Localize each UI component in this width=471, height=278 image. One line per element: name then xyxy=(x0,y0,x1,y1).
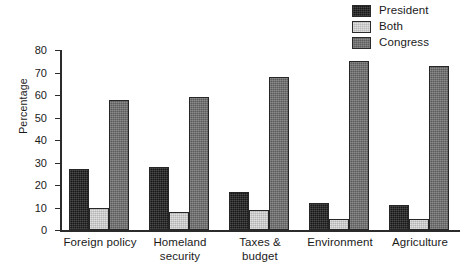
y-tick: 60 xyxy=(55,95,60,96)
bar-president xyxy=(389,205,409,230)
legend-item-congress: Congress xyxy=(352,36,429,49)
bar-group xyxy=(149,97,211,230)
bar-chart: President Both Congress Percentage 01020… xyxy=(0,0,471,278)
bar-both xyxy=(249,210,269,230)
bar-congress xyxy=(109,100,129,231)
y-axis-title: Percentage xyxy=(17,61,29,151)
legend-swatch-both xyxy=(352,21,371,33)
category-label: Homeland security xyxy=(135,236,225,263)
y-tick-label: 30 xyxy=(35,157,47,169)
legend-label-both: Both xyxy=(379,20,403,33)
bar-both xyxy=(89,208,109,231)
category-label: Agriculture xyxy=(375,236,465,250)
legend-swatch-president xyxy=(352,5,371,17)
bar-congress xyxy=(349,61,369,230)
plot-area: 01020304050607080 xyxy=(60,50,460,230)
bar-president xyxy=(309,203,329,230)
y-tick: 30 xyxy=(55,163,60,164)
bar-group xyxy=(389,66,451,230)
bar-both xyxy=(169,212,189,230)
y-tick: 10 xyxy=(55,208,60,209)
x-axis-line xyxy=(60,230,460,232)
y-tick-label: 60 xyxy=(35,89,47,101)
bar-group xyxy=(69,100,131,231)
category-label: Foreign policy xyxy=(55,236,145,250)
y-tick-label: 20 xyxy=(35,179,47,191)
legend-label-congress: Congress xyxy=(379,36,429,49)
y-tick-label: 70 xyxy=(35,67,47,79)
y-tick: 40 xyxy=(55,140,60,141)
y-tick: 80 xyxy=(55,50,60,51)
category-label: Taxes & budget xyxy=(215,236,305,263)
bar-president xyxy=(229,192,249,230)
legend-label-president: President xyxy=(379,4,428,17)
bar-group xyxy=(229,77,291,230)
bar-president xyxy=(69,169,89,230)
bar-both xyxy=(409,219,429,230)
legend-item-president: President xyxy=(352,4,429,17)
y-tick-label: 10 xyxy=(35,202,47,214)
category-label: Environment xyxy=(295,236,385,250)
bar-congress xyxy=(429,66,449,230)
y-axis-line xyxy=(60,50,62,230)
bar-both xyxy=(329,219,349,230)
y-tick-label: 80 xyxy=(35,44,47,56)
y-tick-label: 40 xyxy=(35,134,47,146)
bar-president xyxy=(149,167,169,230)
y-tick: 0 xyxy=(55,230,60,231)
y-tick: 20 xyxy=(55,185,60,186)
bar-congress xyxy=(269,77,289,230)
bar-group xyxy=(309,61,371,230)
y-tick: 70 xyxy=(55,73,60,74)
bar-congress xyxy=(189,97,209,230)
y-tick: 50 xyxy=(55,118,60,119)
y-tick-label: 50 xyxy=(35,112,47,124)
y-tick-label: 0 xyxy=(41,224,47,236)
legend-swatch-congress xyxy=(352,37,371,49)
legend-item-both: Both xyxy=(352,20,429,33)
chart-legend: President Both Congress xyxy=(352,4,429,49)
